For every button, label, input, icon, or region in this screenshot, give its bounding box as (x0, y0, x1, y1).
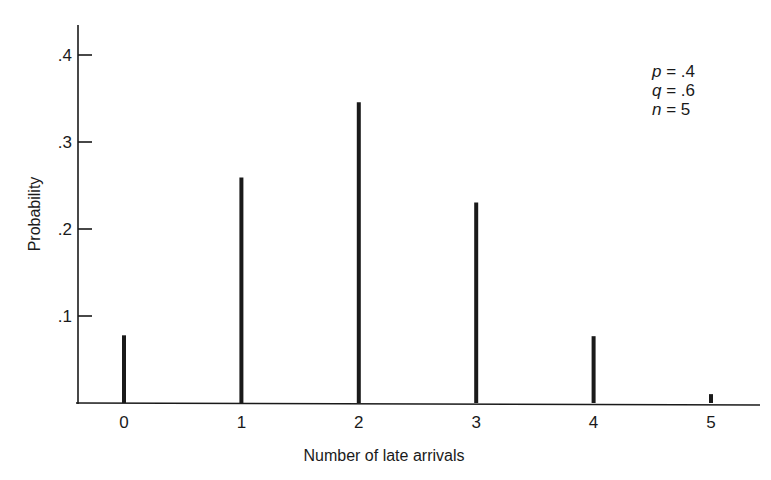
y-axis: .1.2.3.4 (58, 25, 92, 404)
x-tick-label: 1 (237, 413, 246, 432)
param-q: q = .6 (652, 81, 695, 100)
x-axis-line (76, 403, 760, 405)
y-axis-title: Probability (26, 177, 43, 252)
binomial-probability-chart: .1.2.3.4 012345 Probability Number of la… (0, 0, 771, 480)
y-tick-label: .1 (58, 307, 72, 326)
parameter-annotations: p = .4q = .6n = 5 (651, 62, 695, 119)
param-n: n = 5 (652, 100, 690, 119)
x-tick-label: 2 (354, 413, 363, 432)
x-tick-label: 0 (119, 413, 128, 432)
probability-bars (124, 102, 711, 403)
y-tick-label: .3 (58, 133, 72, 152)
y-tick-label: .4 (58, 46, 72, 65)
x-axis: 012345 (76, 403, 760, 432)
x-tick-label: 4 (589, 413, 598, 432)
y-tick-label: .2 (58, 220, 72, 239)
x-tick-label: 5 (706, 413, 715, 432)
param-p: p = .4 (651, 62, 695, 81)
x-tick-label: 3 (471, 413, 480, 432)
x-axis-title: Number of late arrivals (304, 447, 465, 464)
